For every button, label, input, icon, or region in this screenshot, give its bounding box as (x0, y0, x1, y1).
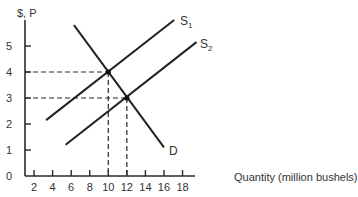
x-tick-label: 10 (100, 182, 116, 193)
y-tick-label: 4 (0, 67, 12, 78)
curve-d (74, 25, 164, 147)
s1-label-main: S (180, 14, 188, 28)
s1-label: S1 (180, 15, 192, 27)
x-tick-label: 2 (26, 182, 42, 193)
x-tick-label: 14 (137, 182, 153, 193)
y-tick-label: 0 (0, 171, 12, 182)
x-axis-label: Quantity (million bushels) (234, 172, 358, 183)
curve-s2 (66, 42, 197, 145)
x-tick-label: 8 (82, 182, 98, 193)
s1-label-sub: 1 (188, 21, 192, 30)
equilibrium-point-e2 (124, 95, 129, 100)
equilibrium-point-e1 (106, 69, 111, 74)
x-tick-label: 4 (45, 182, 61, 193)
curves (46, 20, 196, 147)
supply-demand-chart (0, 0, 358, 197)
y-tick-label: 3 (0, 93, 12, 104)
s2-label: S2 (200, 38, 212, 50)
x-tick-label: 18 (175, 182, 191, 193)
y-axis-label: $, P (17, 8, 37, 19)
curve-s1 (46, 20, 174, 120)
y-tick-label: 2 (0, 119, 12, 130)
s2-label-main: S (200, 37, 208, 51)
x-tick-label: 12 (119, 182, 135, 193)
s2-label-sub: 2 (208, 44, 212, 53)
d-label: D (169, 145, 178, 157)
y-tick-label: 1 (0, 145, 12, 156)
x-tick-label: 16 (156, 182, 172, 193)
equilibrium-guides (25, 72, 127, 176)
x-tick-label: 6 (63, 182, 79, 193)
y-tick-label: 5 (0, 41, 12, 52)
